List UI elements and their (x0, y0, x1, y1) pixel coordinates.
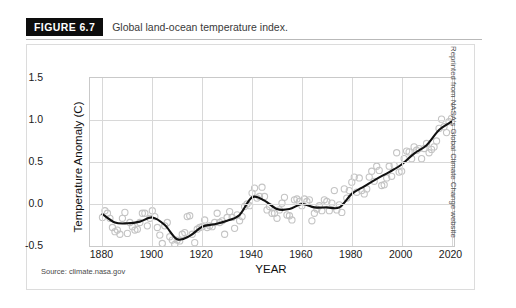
data-point (227, 208, 233, 214)
x-axis-label: YEAR (89, 263, 453, 275)
x-tick-label: 1880 (90, 248, 113, 260)
y-tick-label: 0.5 (3, 155, 43, 167)
data-point (418, 156, 424, 162)
data-point (144, 223, 150, 229)
data-point (274, 215, 280, 221)
data-point (214, 210, 220, 216)
plot-area (89, 77, 455, 247)
x-tick-label: 1980 (339, 248, 362, 260)
data-point (124, 230, 130, 236)
data-point (192, 240, 198, 246)
data-point (154, 224, 160, 230)
y-axis-label: Temperature Anomaly (C) (72, 82, 84, 252)
y-tick-label: 1.0 (3, 113, 43, 125)
data-point (331, 187, 337, 193)
gridline-horizontal (90, 120, 454, 121)
figure-caption-row: FIGURE 6.7 Global land-ocean temperature… (26, 18, 482, 38)
y-tick-label: 0.0 (3, 197, 43, 209)
data-point (232, 225, 238, 231)
gridline-horizontal (90, 162, 454, 163)
x-tick-label: 1900 (140, 248, 163, 260)
image-credit: Reprinted from NASA's Global Climate Cha… (449, 46, 458, 286)
figure-card: FIGURE 6.7 Global land-ocean temperature… (26, 18, 488, 290)
gridline-horizontal (90, 204, 454, 205)
data-point (157, 232, 163, 238)
caption-divider (26, 39, 482, 40)
y-tick-label: 1.5 (3, 71, 43, 83)
trend-line (102, 122, 451, 240)
x-tick-label: 1960 (289, 248, 312, 260)
data-point (394, 150, 400, 156)
x-tick-label: 1920 (190, 248, 213, 260)
data-point (339, 209, 345, 215)
x-tick-label: 2000 (389, 248, 412, 260)
data-point (222, 231, 228, 237)
data-point (119, 215, 125, 221)
data-point (122, 209, 128, 215)
data-point (433, 138, 439, 144)
x-tick-label: 1940 (239, 248, 262, 260)
data-point (369, 168, 375, 174)
y-tick-label: -0.5 (3, 239, 43, 251)
data-point (281, 194, 287, 200)
source-note: Source: climate.nasa.gov (41, 267, 125, 276)
data-point (309, 218, 315, 224)
data-point (159, 240, 165, 246)
figure-number-badge: FIGURE 6.7 (26, 18, 103, 36)
chart-panel: Temperature Anomaly (C) YEAR -0.50.00.51… (26, 44, 475, 290)
figure-caption-text: Global land-ocean temperature index. (103, 18, 288, 36)
data-point (259, 184, 265, 190)
